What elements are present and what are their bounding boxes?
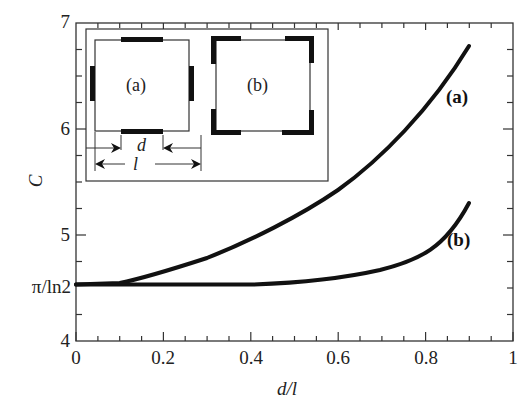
y-tick-6: 6 <box>61 118 71 140</box>
x-tick-0.8: 0.8 <box>414 347 438 369</box>
inset-diagram <box>86 29 328 181</box>
y-tick-5: 5 <box>61 224 71 246</box>
x-tick-0.4: 0.4 <box>239 347 263 369</box>
x-tick-0.6: 0.6 <box>326 347 350 369</box>
x-axis-title: d/l <box>277 378 297 400</box>
curve-label-b: (b) <box>447 229 470 251</box>
x-tick-0.2: 0.2 <box>151 347 175 369</box>
y-tick-4: 4 <box>61 330 71 352</box>
x-tick-0: 0 <box>71 347 81 369</box>
y-axis-title: C <box>25 175 47 188</box>
inset-dim-l: l <box>133 154 138 175</box>
curve-label-a: (a) <box>446 86 468 108</box>
curve-b <box>76 203 469 285</box>
x-tick-1: 1 <box>508 347 518 369</box>
inset-label-a: (a) <box>126 75 146 96</box>
inset-dim-d: d <box>137 135 146 156</box>
y-tick-7: 7 <box>61 11 71 33</box>
y-tick-pi-ln2: π/ln2 <box>32 276 71 298</box>
inset-label-b: (b) <box>247 75 268 96</box>
